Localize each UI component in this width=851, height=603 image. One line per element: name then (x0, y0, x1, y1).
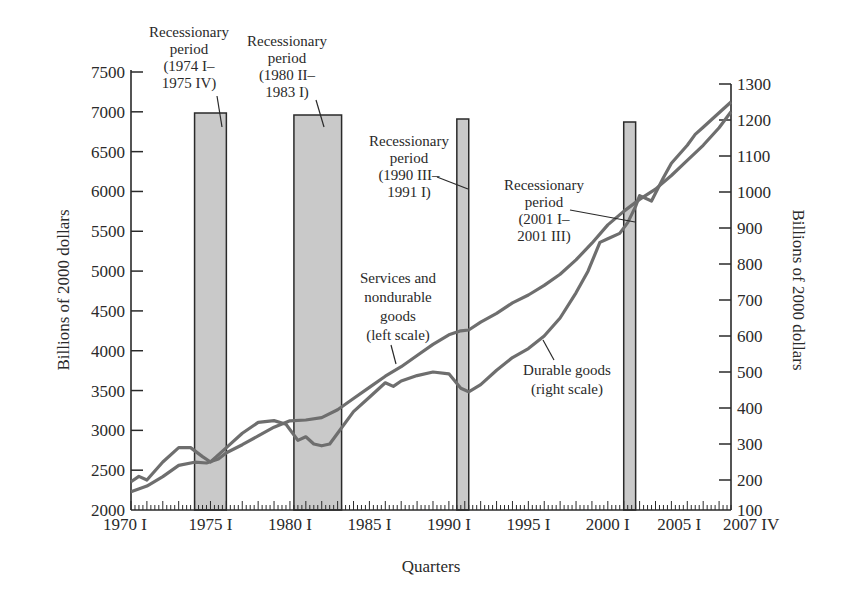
right-y-axis-label: Billions of 2000 dollars (789, 209, 808, 370)
right-y-tick-label: 800 (737, 255, 763, 274)
x-tick-label: 1975 I (189, 515, 233, 534)
right-y-tick-label: 200 (737, 471, 763, 490)
x-tick-label: 2000 I (586, 515, 630, 534)
left-y-tick-label: 3000 (91, 421, 125, 440)
x-axis-label: Quarters (402, 557, 461, 576)
x-tick-label: 1970 I (103, 515, 147, 534)
x-tick-label: 2007 IV (723, 515, 780, 534)
left-y-tick-label: 4500 (91, 302, 125, 321)
right-y-tick-label: 400 (737, 399, 763, 418)
svg-text:goods: goods (380, 308, 416, 324)
recession-label-1980: Recessionaryperiod(1980 II–1983 I) (247, 33, 327, 101)
left-y-tick-label: 6500 (91, 143, 125, 162)
durable-series-label: Durable goods(right scale) (523, 362, 611, 398)
right-y-tick-label: 1200 (737, 111, 771, 130)
svg-text:(left scale): (left scale) (366, 327, 430, 344)
svg-text:period: period (268, 50, 307, 66)
left-y-axis-label: Billions of 2000 dollars (54, 209, 73, 370)
right-y-tick-label: 1100 (737, 147, 770, 166)
svg-text:(1990 III–: (1990 III– (378, 167, 440, 184)
svg-text:1983 I): 1983 I) (265, 84, 309, 101)
consumption-chart: 2000250030003500400045005000550060006500… (0, 0, 851, 603)
left-y-tick-label: 7500 (91, 63, 125, 82)
right-y-tick-label: 900 (737, 219, 763, 238)
svg-text:period: period (170, 41, 209, 57)
recession-label-1974: Recessionaryperiod(1974 I–1975 IV) (149, 24, 229, 92)
svg-text:Services and: Services and (360, 270, 437, 286)
svg-text:1975 IV): 1975 IV) (162, 75, 217, 92)
right-y-tick-label: 700 (737, 291, 763, 310)
x-tick-label: 2005 I (657, 515, 701, 534)
right-y-tick-label: 1300 (737, 75, 771, 94)
svg-text:period: period (525, 194, 564, 210)
svg-text:nondurable: nondurable (364, 289, 432, 305)
svg-text:(2001 I–: (2001 I– (518, 211, 570, 228)
svg-text:Recessionary: Recessionary (149, 24, 229, 40)
left-y-tick-label: 2500 (91, 461, 125, 480)
left-y-tick-label: 4000 (91, 342, 125, 361)
svg-text:1991 I): 1991 I) (387, 184, 431, 201)
svg-text:(right scale): (right scale) (531, 381, 603, 398)
svg-text:Recessionary: Recessionary (369, 133, 449, 149)
svg-text:period: period (390, 150, 429, 166)
left-y-tick-label: 6000 (91, 182, 125, 201)
svg-text:Durable goods: Durable goods (523, 362, 611, 378)
svg-text:2001 III): 2001 III) (517, 228, 571, 245)
recession-bar (457, 119, 469, 510)
right-y-tick-label: 600 (737, 327, 763, 346)
services-series-label: Services andnondurablegoods(left scale) (360, 270, 437, 344)
left-y-tick-label: 5000 (91, 262, 125, 281)
x-tick-label: 1980 I (268, 515, 312, 534)
x-tick-label: 1990 I (427, 515, 471, 534)
left-y-tick-label: 7000 (91, 103, 125, 122)
right-y-tick-label: 300 (737, 435, 763, 454)
svg-text:(1974 I–: (1974 I– (163, 58, 215, 75)
x-tick-label: 1995 I (506, 515, 550, 534)
recession-bar (294, 115, 342, 510)
svg-text:Recessionary: Recessionary (247, 33, 327, 49)
svg-text:(1980 II–: (1980 II– (259, 67, 316, 84)
right-y-tick-label: 1000 (737, 183, 771, 202)
left-y-tick-label: 5500 (91, 222, 125, 241)
recession-bar (624, 122, 636, 510)
x-tick-label: 1985 I (347, 515, 391, 534)
svg-text:Recessionary: Recessionary (504, 177, 584, 193)
recession-label-1990: Recessionaryperiod(1990 III–1991 I) (369, 133, 449, 201)
right-y-tick-label: 500 (737, 363, 763, 382)
left-y-tick-label: 3500 (91, 382, 125, 401)
